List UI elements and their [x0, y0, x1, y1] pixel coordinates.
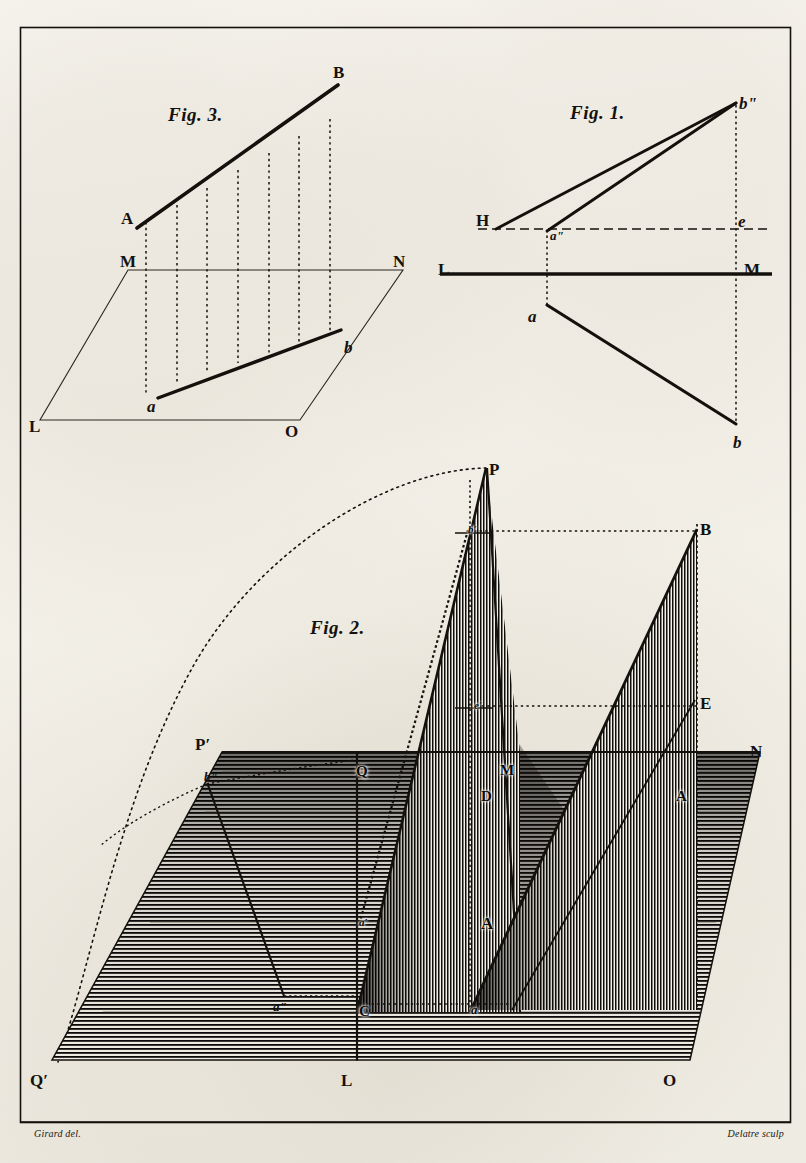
fig2-label-a-12: a′ [359, 917, 368, 928]
fig2-label-E-3: E [700, 695, 711, 712]
fig3-label-O-5: O [285, 423, 298, 440]
fig2-label-a-14: aʺ [273, 1000, 287, 1013]
fig1-label-b-0: bʺ [739, 95, 757, 112]
fig1-label-b-7: b [733, 434, 742, 451]
figure-3 [40, 85, 403, 420]
fig2-label-e-4: e′ [474, 700, 482, 711]
fig3-label-M-2: M [120, 253, 136, 270]
fig1-caption: Fig. 1. [570, 103, 625, 122]
fig2-label-L-18: L [341, 1072, 352, 1089]
fig3-line-ab [158, 330, 341, 398]
fig2-label-Q-8: Q [356, 764, 368, 779]
fig1-label-M-5: M [744, 261, 760, 278]
fig2-label-P-5: P′ [195, 736, 210, 753]
fig1-label-H-1: H [476, 212, 489, 229]
fig1-label-L-4: L [438, 261, 449, 278]
fig2-label-N-6: N [750, 743, 762, 760]
fig2-label-P-0: P [489, 461, 499, 478]
fig3-label-a-6: a [147, 398, 156, 415]
fig3-ordinates [146, 119, 330, 394]
fig1-label-a-3: aʺ [550, 229, 564, 242]
fig1-line-a-b [547, 305, 736, 424]
fig2-label-D-10: D [481, 789, 492, 804]
fig2-label-Q-17: Q′ [30, 1072, 48, 1089]
fig3-label-A-1: A [121, 210, 133, 227]
fig2-label-b-9: bʺ [204, 770, 218, 783]
fig2-label-A-11: A [676, 789, 687, 804]
credit-engraver: Delatre sculp [728, 1128, 784, 1139]
fig2-ground-left-shade [52, 752, 357, 1060]
fig1-label-a-6: a [528, 308, 537, 325]
figure-2 [52, 468, 760, 1062]
fig3-label-B-0: B [333, 64, 344, 81]
fig3-caption: Fig. 3. [168, 105, 223, 124]
fig3-label-b-7: b [344, 339, 353, 356]
fig2-label-O-19: O [663, 1072, 676, 1089]
fig2-label-a-16: a [471, 1003, 478, 1016]
credit-draftsman: Girard del. [34, 1128, 81, 1139]
fig1-label-e-2: e [738, 213, 746, 230]
fig2-label-M-7: M [500, 763, 514, 778]
fig2-label-C-15: C [359, 1004, 370, 1019]
fig2-label-B-1: B [700, 521, 711, 538]
engraving-plate: Fig. 3.BAMNLOabFig. 1.bʺHeaʺLMabFig. 2.P… [0, 0, 806, 1163]
fig3-label-L-4: L [29, 418, 40, 435]
fig2-label-b-2: b′ [468, 524, 477, 535]
fig2-caption: Fig. 2. [310, 618, 365, 637]
fig2-plane-mid-shade [357, 468, 520, 1012]
plate-drawing [0, 0, 806, 1163]
fig3-label-N-3: N [393, 253, 405, 270]
figure-1 [440, 103, 772, 425]
fig2-label-A-13: A [481, 915, 493, 932]
